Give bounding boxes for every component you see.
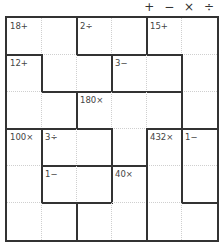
operator-legend: + − × ÷ [144,0,217,14]
cage-label: 40× [115,169,133,179]
cage-label: 12+ [10,58,28,68]
grid-cell[interactable] [42,203,77,240]
grid-cell[interactable] [182,203,217,240]
grid-cell[interactable] [112,203,147,240]
cage-label: 180× [80,95,103,105]
cage-label: 15+ [150,21,168,31]
cage-label: 1− [45,169,58,179]
grid-cell[interactable] [182,18,217,55]
cage-label: 2÷ [80,21,93,31]
cage-label: 3÷ [45,132,58,142]
grid-cell[interactable] [42,55,77,92]
cage-label: 3− [115,58,128,68]
grid-cell[interactable] [77,55,112,92]
grid-cell[interactable] [7,203,42,240]
grid-cell[interactable] [147,166,182,203]
puzzle-grid: 18+2÷15+12+3−180×100×3÷432×1−1−40× [5,16,219,242]
grid-cell[interactable] [7,92,42,129]
grid-cell[interactable] [147,55,182,92]
grid-cell[interactable] [42,92,77,129]
grid-cell[interactable] [77,166,112,203]
cage-label: 432× [150,132,173,142]
grid-cell[interactable] [182,55,217,92]
grid-cell[interactable] [112,92,147,129]
grid-cell[interactable] [147,203,182,240]
grid-cell[interactable] [182,92,217,129]
grid-cell[interactable] [112,18,147,55]
grid-cell[interactable] [77,203,112,240]
cage-label: 100× [10,132,33,142]
grid-cell[interactable] [7,166,42,203]
grid-cell[interactable] [112,129,147,166]
cage-label: 1− [185,132,198,142]
cage-label: 18+ [10,21,28,31]
grid-cell[interactable] [77,129,112,166]
grid-cell[interactable] [182,166,217,203]
grid-cell[interactable] [147,92,182,129]
grid-cell[interactable] [42,18,77,55]
